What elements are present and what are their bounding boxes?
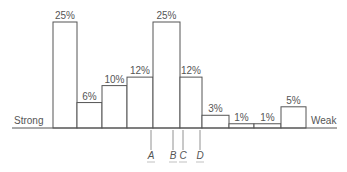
bar-value-label: 12% [181,65,201,76]
bar-value-label: 25% [156,10,176,21]
bar [229,124,254,128]
bar-value-label: 25% [55,10,75,21]
bars: 25%6%10%12%25%12%3%1%1%5% [53,10,306,128]
axis-right-label: Weak [311,115,337,126]
bar [77,103,102,128]
bar-value-label: 3% [208,103,223,114]
markers: ABCD [147,130,204,162]
axis-left-label: Strong [14,115,43,126]
bar [102,86,127,128]
bar [153,22,180,128]
bar-value-label: 12% [130,65,150,76]
bar [127,77,153,128]
bar [281,107,306,128]
chart: 25%6%10%12%25%12%3%1%1%5% Strong Weak AB… [0,0,347,172]
marker-label-a: A [147,150,155,161]
bar-value-label: 5% [286,95,301,106]
bar-value-label: 10% [104,74,124,85]
bar [202,115,229,128]
bar [180,77,202,128]
marker-label-b: B [170,150,177,161]
bar-value-label: 1% [234,112,249,123]
bar [254,124,281,128]
bar-value-label: 1% [260,112,275,123]
marker-label-c: C [179,150,187,161]
bar [53,22,77,128]
bar-value-label: 6% [82,91,97,102]
marker-label-d: D [196,150,203,161]
